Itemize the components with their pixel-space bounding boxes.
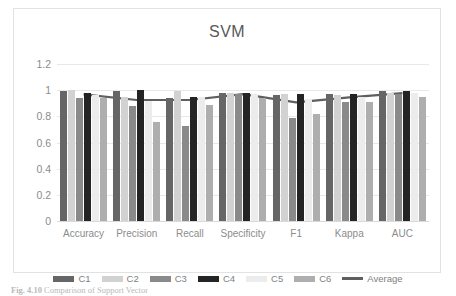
bar-c5-recall: [198, 97, 205, 221]
y-axis-tick-label: 0.6: [36, 137, 51, 149]
legend-item-c1[interactable]: C1: [53, 273, 90, 284]
legend-swatch-c5-icon: [246, 276, 267, 282]
bar-c6-accuracy: [100, 98, 107, 221]
bar-group: Specificity: [216, 64, 269, 221]
bar-c5-auc: [411, 93, 418, 221]
y-axis-tick-label: 0.4: [36, 163, 51, 175]
legend-swatch-c1-icon: [53, 276, 74, 282]
x-axis-tick-label: F1: [270, 228, 323, 239]
chart-legend: C1C2C3C4C5C6Average: [0, 273, 456, 284]
legend-swatch-c2-icon: [102, 276, 123, 282]
bar-group: Accuracy: [57, 64, 110, 221]
y-axis-tick-label: 0.8: [36, 110, 51, 122]
bar-group-bars: [323, 64, 376, 221]
bar-c5-precision: [145, 101, 152, 221]
bar-c3-accuracy: [76, 98, 83, 221]
bar-c3-specificity: [235, 94, 242, 221]
bar-c6-auc: [419, 97, 426, 221]
legend-item-average[interactable]: Average: [342, 273, 402, 284]
bar-c3-precision: [129, 106, 136, 221]
bar-c4-kappa: [350, 94, 357, 221]
bar-c2-auc: [387, 93, 394, 221]
bar-c6-recall: [206, 105, 213, 221]
x-axis-tick-label: Precision: [110, 228, 163, 239]
bar-group: Recall: [163, 64, 216, 221]
x-axis-tick-label: Specificity: [216, 228, 269, 239]
legend-label: C5: [271, 273, 283, 284]
gridline: [57, 221, 429, 222]
bar-c1-precision: [113, 91, 120, 221]
bar-group-bars: [376, 64, 429, 221]
chart-title: SVM: [14, 23, 440, 41]
x-axis-tick-label: Recall: [163, 228, 216, 239]
bar-c4-recall: [190, 97, 197, 221]
figure-container: SVM 1.210.80.60.40.20AccuracyPrecisionRe…: [0, 0, 456, 296]
bar-c2-kappa: [334, 95, 341, 221]
caption-label: Fig. 4.10: [11, 285, 42, 295]
bar-c4-precision: [137, 90, 144, 221]
bar-c2-f1: [281, 94, 288, 221]
y-axis-tick-label: 1.2: [36, 58, 51, 70]
bar-c1-kappa: [326, 94, 333, 221]
bar-c3-auc: [395, 94, 402, 221]
y-axis-tick-label: 1: [45, 84, 51, 96]
bar-c5-kappa: [358, 97, 365, 221]
y-axis-tick-label: 0.2: [36, 189, 51, 201]
legend-label: C2: [127, 273, 139, 284]
x-axis-tick-label: Kappa: [323, 228, 376, 239]
bar-c4-auc: [403, 91, 410, 221]
bar-c2-precision: [121, 97, 128, 221]
bar-c2-specificity: [227, 93, 234, 221]
bar-group: Precision: [110, 64, 163, 221]
figure-caption: Fig. 4.10 Comparison of Support Vector: [11, 285, 148, 295]
legend-swatch-c4-icon: [198, 276, 219, 282]
bar-group: F1: [270, 64, 323, 221]
plot-area: 1.210.80.60.40.20AccuracyPrecisionRecall…: [57, 64, 429, 221]
legend-label: Average: [367, 273, 402, 284]
bar-c3-recall: [182, 126, 189, 222]
legend-item-c3[interactable]: C3: [150, 273, 187, 284]
legend-swatch-c6-icon: [294, 276, 315, 282]
bar-group-bars: [110, 64, 163, 221]
legend-label: C6: [319, 273, 331, 284]
legend-label: C1: [78, 273, 90, 284]
legend-item-c6[interactable]: C6: [294, 273, 331, 284]
bar-c5-f1: [305, 99, 312, 221]
bar-c6-specificity: [259, 98, 266, 221]
bar-group: AUC: [376, 64, 429, 221]
bar-c1-accuracy: [60, 91, 67, 221]
bar-group-bars: [270, 64, 323, 221]
bar-c2-recall: [174, 91, 181, 221]
bar-c1-recall: [166, 98, 173, 221]
bar-c1-f1: [273, 95, 280, 221]
x-axis-tick-label: Accuracy: [57, 228, 110, 239]
legend-item-c2[interactable]: C2: [102, 273, 139, 284]
bar-c1-specificity: [219, 93, 226, 221]
chart-frame: SVM 1.210.80.60.40.20AccuracyPrecisionRe…: [13, 8, 441, 273]
legend-item-c5[interactable]: C5: [246, 273, 283, 284]
bar-c1-auc: [379, 91, 386, 221]
bar-c5-accuracy: [92, 95, 99, 221]
legend-label: C3: [175, 273, 187, 284]
legend-label: C4: [223, 273, 235, 284]
legend-item-c4[interactable]: C4: [198, 273, 235, 284]
bar-c4-accuracy: [84, 93, 91, 221]
bar-c3-f1: [289, 118, 296, 221]
caption-text: Comparison of Support Vector: [44, 285, 148, 295]
bar-c6-kappa: [366, 102, 373, 221]
bar-group-bars: [163, 64, 216, 221]
y-axis-tick-label: 0: [45, 215, 51, 227]
bar-c4-specificity: [243, 93, 250, 221]
legend-swatch-average-icon: [342, 277, 363, 280]
bar-group-bars: [216, 64, 269, 221]
bar-c6-precision: [153, 122, 160, 221]
bar-group-bars: [57, 64, 110, 221]
bar-c5-specificity: [251, 94, 258, 221]
bar-group: Kappa: [323, 64, 376, 221]
legend-swatch-c3-icon: [150, 276, 171, 282]
bar-c6-f1: [313, 114, 320, 221]
bar-c2-accuracy: [68, 90, 75, 221]
x-axis-tick-label: AUC: [376, 228, 429, 239]
bar-c4-f1: [297, 94, 304, 221]
bar-c3-kappa: [342, 102, 349, 221]
